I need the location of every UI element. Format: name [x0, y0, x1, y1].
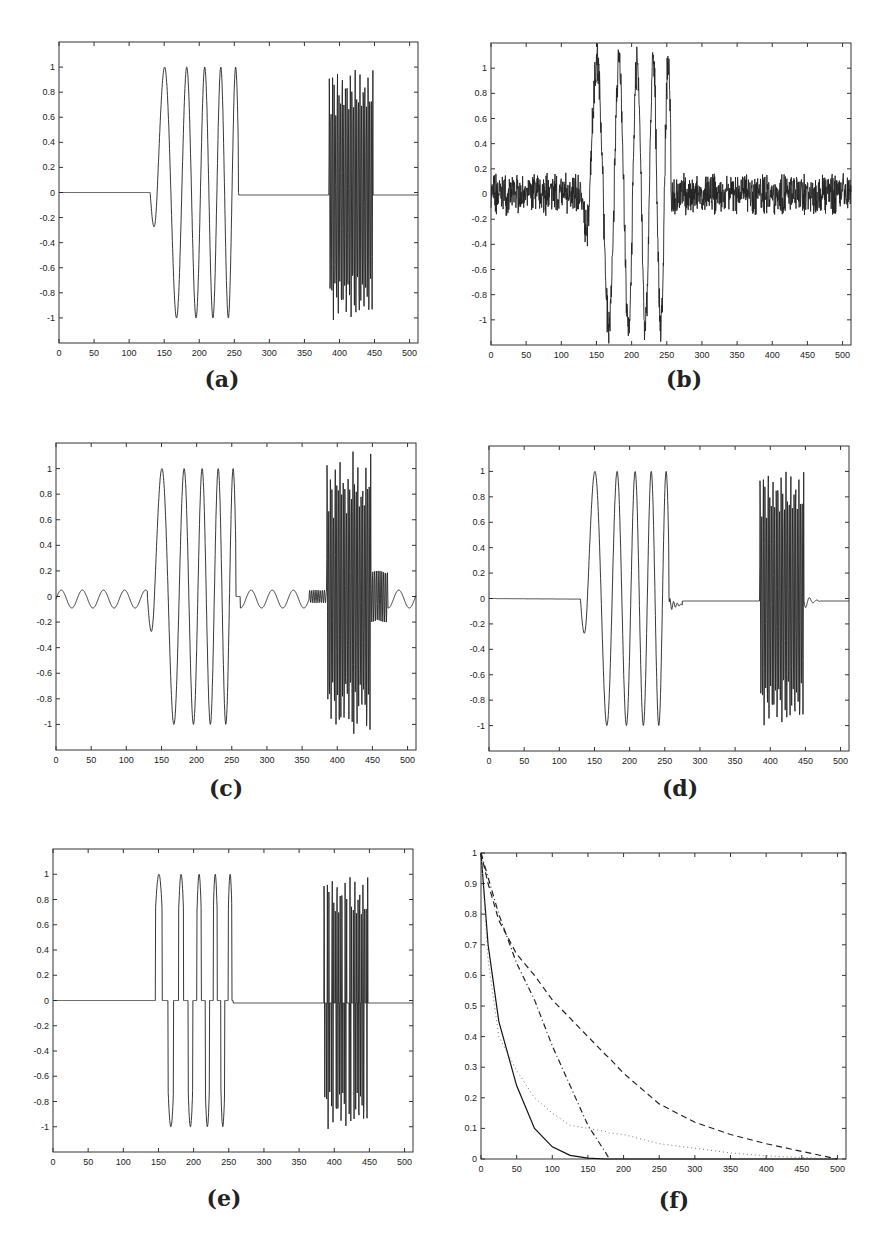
x-tick-label: 300: [256, 1157, 271, 1167]
x-tick-label: 150: [589, 350, 604, 360]
y-tick-label: -1: [47, 313, 55, 323]
x-tick-label: 300: [692, 756, 707, 766]
x-tick-label: 150: [587, 756, 602, 766]
x-tick-label: 350: [723, 1164, 738, 1174]
chart-b: 050100150200250300350400450500-1-0.8-0.6…: [444, 0, 888, 420]
y-tick-label: 0.8: [36, 895, 49, 905]
x-tick-label: 150: [151, 1157, 166, 1167]
x-tick-label: 200: [616, 1164, 631, 1174]
x-tick-label: 200: [192, 348, 207, 358]
series-dash-dot: [481, 853, 609, 1159]
x-tick-label: 200: [186, 1157, 201, 1167]
y-tick-label: 0.4: [42, 137, 55, 147]
y-tick-label: 0.6: [42, 112, 55, 122]
y-tick-label: 1: [50, 62, 55, 72]
series-reconstruction-b: [491, 44, 851, 344]
chart-a: 050100150200250300350400450500-1-0.8-0.6…: [0, 0, 444, 420]
series-reconstruction-c: [56, 452, 416, 734]
panel-c: 050100150200250300350400450500-1-0.8-0.6…: [0, 420, 444, 830]
y-tick-label: 0: [480, 594, 485, 604]
y-tick-label: -0.6: [471, 265, 487, 275]
y-tick-label: 0.4: [39, 540, 52, 550]
x-tick-label: 300: [259, 755, 274, 765]
y-tick-label: -1: [41, 1122, 49, 1132]
x-tick-label: 400: [327, 1157, 342, 1167]
y-tick-label: 0.1: [464, 1123, 477, 1133]
y-tick-label: -0.8: [33, 1097, 49, 1107]
x-tick-label: 100: [116, 1157, 131, 1167]
y-tick-label: 0.4: [474, 139, 487, 149]
x-tick-label: 350: [297, 348, 312, 358]
panel-e: 050100150200250300350400450500-1-0.8-0.6…: [0, 830, 444, 1254]
y-tick-label: 0.6: [36, 920, 49, 930]
panel-d: 050100150200250300350400450500-1-0.8-0.6…: [444, 420, 888, 830]
y-tick-label: 0.2: [39, 566, 52, 576]
y-tick-label: 0.7: [464, 940, 477, 950]
x-tick-label: 50: [83, 1157, 93, 1167]
caption-c: (c): [186, 775, 266, 801]
y-tick-label: 0.6: [464, 970, 477, 980]
series-original-signal: [59, 67, 418, 320]
x-tick-label: 50: [512, 1164, 522, 1174]
y-tick-label: -0.4: [471, 239, 487, 249]
x-tick-label: 450: [798, 756, 813, 766]
chart-d: 050100150200250300350400450500-1-0.8-0.6…: [444, 420, 888, 830]
x-tick-label: 100: [554, 350, 569, 360]
y-tick-label: 0.8: [39, 489, 52, 499]
x-tick-label: 450: [794, 1164, 809, 1174]
y-tick-label: 0.6: [474, 114, 487, 124]
y-tick-label: 0: [44, 996, 49, 1006]
y-tick-label: -0.8: [36, 694, 52, 704]
series-dotted: [481, 853, 837, 1159]
x-tick-label: 300: [694, 350, 709, 360]
x-tick-label: 500: [402, 348, 417, 358]
y-tick-label: -0.6: [36, 668, 52, 678]
x-tick-label: 250: [227, 348, 242, 358]
plot-frame: [481, 853, 846, 1159]
x-tick-label: 500: [830, 1164, 845, 1174]
x-tick-label: 450: [365, 755, 380, 765]
y-tick-label: -1: [479, 315, 487, 325]
y-tick-label: 0: [47, 592, 52, 602]
x-tick-label: 300: [262, 348, 277, 358]
x-tick-label: 250: [224, 755, 239, 765]
y-tick-label: -1: [44, 719, 52, 729]
panel-b: 050100150200250300350400450500-1-0.8-0.6…: [444, 0, 888, 420]
y-tick-label: 1: [44, 869, 49, 879]
x-tick-label: 350: [292, 1157, 307, 1167]
caption-a: (a): [182, 366, 262, 392]
caption-d: (d): [640, 775, 720, 801]
y-tick-label: -0.2: [36, 617, 52, 627]
y-tick-label: -0.2: [471, 214, 487, 224]
y-tick-label: 0.3: [464, 1062, 477, 1072]
y-tick-label: -0.4: [469, 644, 485, 654]
y-tick-label: 0.2: [474, 164, 487, 174]
x-tick-label: 400: [763, 756, 778, 766]
y-tick-label: 0.8: [472, 492, 485, 502]
y-tick-label: -0.2: [39, 213, 55, 223]
x-tick-label: 200: [189, 755, 204, 765]
y-tick-label: 0.4: [464, 1032, 477, 1042]
x-tick-label: 50: [521, 350, 531, 360]
y-tick-label: -0.6: [469, 670, 485, 680]
y-tick-label: 0: [472, 1154, 477, 1164]
y-tick-label: -0.8: [39, 288, 55, 298]
x-tick-label: 0: [56, 348, 61, 358]
y-tick-label: -0.2: [33, 1021, 49, 1031]
x-tick-label: 350: [730, 350, 745, 360]
x-tick-label: 400: [332, 348, 347, 358]
x-tick-label: 50: [86, 755, 96, 765]
x-tick-label: 200: [624, 350, 639, 360]
x-tick-label: 150: [157, 348, 172, 358]
panel-a: 050100150200250300350400450500-1-0.8-0.6…: [0, 0, 444, 420]
caption-b: (b): [644, 366, 724, 392]
x-tick-label: 50: [89, 348, 99, 358]
y-tick-label: -0.4: [39, 238, 55, 248]
y-tick-label: 0.8: [464, 909, 477, 919]
y-tick-label: 0.6: [472, 517, 485, 527]
x-tick-label: 500: [400, 755, 415, 765]
y-tick-label: -1: [477, 721, 485, 731]
x-tick-label: 350: [295, 755, 310, 765]
x-tick-label: 100: [119, 755, 134, 765]
y-tick-label: 0.2: [464, 1093, 477, 1103]
